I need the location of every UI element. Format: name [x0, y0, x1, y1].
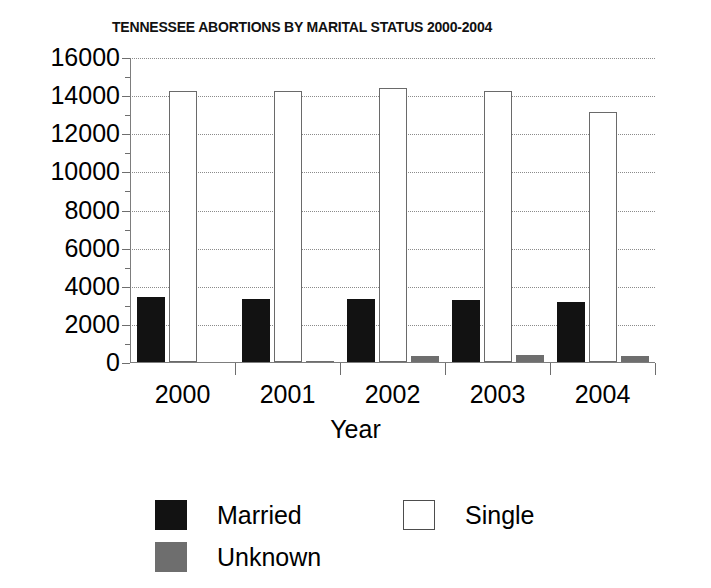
- bar-single-2004: [589, 112, 617, 362]
- x-axis-tick-label: 2004: [548, 381, 658, 407]
- x-axis-tick: [550, 363, 551, 375]
- chart-title: TENNESSEE ABORTIONS BY MARITAL STATUS 20…: [112, 19, 602, 35]
- legend-swatch-single-icon: [403, 500, 435, 530]
- y-axis-tick-label: 2000: [10, 312, 120, 337]
- bar-married-2002: [347, 299, 375, 362]
- legend-label: Married: [217, 498, 302, 532]
- y-axis-tick-major: [122, 249, 130, 250]
- y-axis-tick-major: [122, 211, 130, 212]
- bar-single-2001: [274, 91, 302, 362]
- plot-area: [130, 58, 655, 363]
- chart-figure: TENNESSEE ABORTIONS BY MARITAL STATUS 20…: [0, 0, 711, 588]
- chart-legend: MarriedSingleUnknown: [155, 498, 635, 574]
- legend-label: Unknown: [217, 540, 321, 574]
- x-axis-tick: [235, 363, 236, 375]
- y-axis-tick-label: 14000: [10, 83, 120, 108]
- bar-single-2000: [169, 91, 197, 362]
- legend-swatch-married-icon: [155, 500, 187, 530]
- y-axis-tick-major: [122, 172, 130, 173]
- y-axis-tick-label: 0: [10, 350, 120, 375]
- legend-label: Single: [465, 498, 535, 532]
- x-axis-tick: [655, 363, 656, 375]
- x-axis-tick-label: 2000: [128, 381, 238, 407]
- y-axis-tick-major: [122, 325, 130, 326]
- y-axis-tick-label: 8000: [10, 198, 120, 223]
- y-axis-line: [130, 58, 131, 363]
- bar-unknown-2003: [516, 355, 544, 362]
- y-axis-tick-label: 16000: [10, 45, 120, 70]
- y-axis-tick-labels: 1600014000120001000080006000400020000: [10, 58, 120, 363]
- y-axis-tick-label: 12000: [10, 121, 120, 146]
- bar-married-2004: [557, 302, 585, 362]
- x-axis-tick-label: 2001: [233, 381, 343, 407]
- bar-married-2003: [452, 300, 480, 362]
- x-axis-title: Year: [0, 416, 711, 442]
- bar-single-2002: [379, 88, 407, 362]
- y-axis-tick-major: [122, 363, 130, 364]
- x-axis-tick: [445, 363, 446, 375]
- x-axis-tick-label: 2003: [443, 381, 553, 407]
- y-axis-tick-label: 4000: [10, 274, 120, 299]
- y-axis-tick-major: [122, 287, 130, 288]
- y-axis-tick-label: 6000: [10, 236, 120, 261]
- x-axis-line: [130, 362, 655, 363]
- y-axis-tick-label: 10000: [10, 159, 120, 184]
- bar-married-2000: [137, 297, 165, 362]
- gridline: [130, 58, 655, 59]
- x-axis-tick-label: 2002: [338, 381, 448, 407]
- legend-swatch-unknown-icon: [155, 542, 187, 572]
- y-axis-tick-major: [122, 96, 130, 97]
- x-axis-tick: [340, 363, 341, 375]
- y-axis-tick-major: [122, 58, 130, 59]
- bar-married-2001: [242, 299, 270, 362]
- bar-single-2003: [484, 91, 512, 362]
- y-axis-tick-major: [122, 134, 130, 135]
